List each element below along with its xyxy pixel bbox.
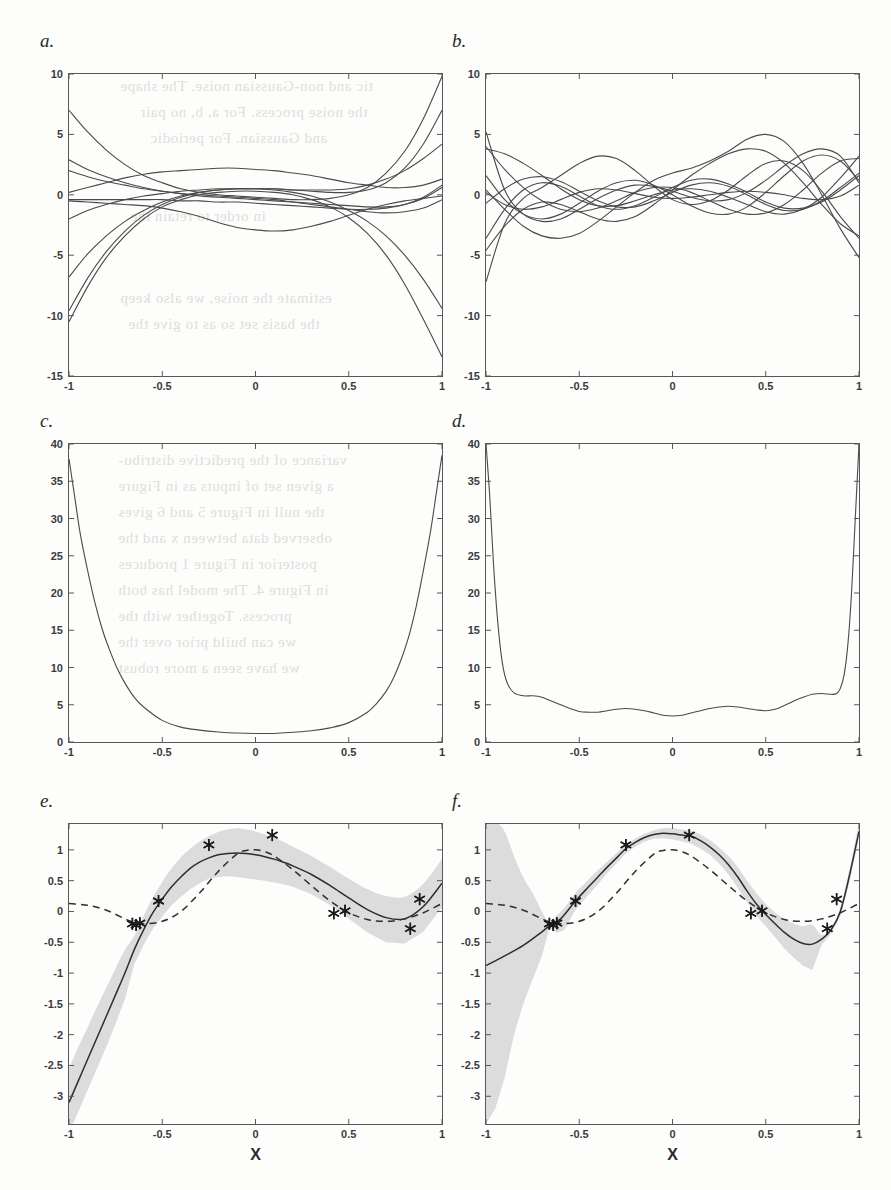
panel-d-ytick-label: 15 — [468, 624, 480, 636]
panel-b-ytick-label: -15 — [464, 370, 480, 382]
panel-d-xtick-label: 0.5 — [758, 746, 773, 758]
panel-d-ytick-label: 40 — [468, 438, 480, 450]
panel-c-ytick-label: 35 — [51, 475, 63, 487]
panel-c: c. 4035302520151050-1-0.500.51 — [40, 410, 445, 770]
panel-c-label: c. — [40, 410, 53, 432]
panel-a-axes: 1050-5-10-15-1-0.500.51 — [68, 73, 443, 377]
panel-f-xtick-label: -1 — [481, 1128, 491, 1140]
panel-d-xtick-label: 1 — [856, 746, 862, 758]
sample-curve-7 — [486, 134, 859, 257]
panel-c-ytick-label: 30 — [51, 513, 63, 525]
panel-d-ytick-label: 0 — [474, 736, 480, 748]
panel-c-xtick-label: 0 — [252, 746, 258, 758]
panel-e-xtick-label: 1 — [439, 1128, 445, 1140]
variance-curve — [69, 455, 442, 733]
panel-d-ytick-label: 35 — [468, 475, 480, 487]
panel-b-ytick-label: 0 — [474, 189, 480, 201]
sample-curve-9 — [69, 196, 442, 231]
sample-curve-6 — [486, 173, 859, 211]
panel-e-xtick-label: -0.5 — [153, 1128, 172, 1140]
panel-a-xtick-label: 1 — [439, 380, 445, 392]
panel-b-ytick-label: 10 — [468, 68, 480, 80]
panel-f-ytick-label: 0.5 — [465, 875, 480, 887]
panel-b-ytick-label: -5 — [470, 249, 480, 261]
panel-d-xtick-label: -0.5 — [570, 746, 589, 758]
panel-b: b. 1050-5-10-15-1-0.500.51 — [452, 30, 872, 390]
panel-e-xtick-label: -1 — [64, 1128, 74, 1140]
panel-e-ytick-label: -2.5 — [44, 1059, 63, 1071]
panel-a-ytick-label: 0 — [57, 189, 63, 201]
panel-c-ytick-label: 40 — [51, 438, 63, 450]
panel-c-ytick-label: 15 — [51, 624, 63, 636]
panel-b-axes: 1050-5-10-15-1-0.500.51 — [485, 73, 860, 377]
panel-a-xtick-label: 0 — [252, 380, 258, 392]
sample-curve-9 — [486, 149, 859, 214]
panel-d-xtick-label: -1 — [481, 746, 491, 758]
panel-f-axes: X 10.50-0.5-1-1.5-2-2.5-3-1-0.500.51 — [485, 823, 860, 1125]
panel-e-xtick-label: 0.5 — [341, 1128, 356, 1140]
sample-curve-3 — [69, 110, 442, 311]
panel-e-ytick-label: -1 — [53, 967, 63, 979]
panel-f-ytick-label: -2 — [470, 1029, 480, 1041]
panel-e-ytick-label: -1.5 — [44, 998, 63, 1010]
panel-c-ytick-label: 0 — [57, 736, 63, 748]
sample-curve-3 — [486, 146, 859, 214]
panel-f-ytick-label: -2.5 — [461, 1059, 480, 1071]
panel-d-ytick-label: 10 — [468, 662, 480, 674]
panel-d-plot — [486, 444, 859, 742]
panel-c-xtick-label: -1 — [64, 746, 74, 758]
sample-curve-1 — [69, 76, 442, 199]
panel-e-ytick-label: 1 — [57, 844, 63, 856]
panel-c-axes: 4035302520151050-1-0.500.51 — [68, 443, 443, 743]
sample-curve-10 — [486, 185, 859, 209]
panel-e: e. X 10.50-0.5-1-1.5-2-2.5-3-1-0.500.51 — [40, 790, 445, 1190]
panel-e-xlabel: X — [250, 1146, 261, 1164]
panel-e-ytick-label: -2 — [53, 1029, 63, 1041]
panel-b-ytick-label: -10 — [464, 310, 480, 322]
panel-a-ytick-label: 5 — [57, 128, 63, 140]
panel-c-ytick-label: 5 — [57, 699, 63, 711]
panel-a-plot — [69, 74, 442, 376]
panel-f-xtick-label: 0 — [669, 1128, 675, 1140]
panel-c-ytick-label: 20 — [51, 587, 63, 599]
panel-c-xtick-label: 0.5 — [341, 746, 356, 758]
panel-f-xlabel: X — [667, 1146, 678, 1164]
panel-a-ytick-label: -15 — [47, 370, 63, 382]
panel-a-ytick-label: -5 — [53, 249, 63, 261]
panel-a-xtick-label: -0.5 — [153, 380, 172, 392]
panel-a-label: a. — [40, 30, 54, 52]
panel-e-ytick-label: 0 — [57, 905, 63, 917]
panel-e-ytick-label: -0.5 — [44, 936, 63, 948]
uncertainty-band — [486, 821, 859, 1124]
sample-curve-2 — [69, 191, 442, 357]
panel-f-xtick-label: 1 — [856, 1128, 862, 1140]
panel-e-xtick-label: 0 — [252, 1128, 258, 1140]
panel-d-axes: 4035302520151050-1-0.500.51 — [485, 443, 860, 743]
panel-d-ytick-label: 5 — [474, 699, 480, 711]
panel-b-xtick-label: -0.5 — [570, 380, 589, 392]
panel-e-label: e. — [40, 790, 53, 812]
panel-a: a. 1050-5-10-15-1-0.500.51 — [40, 30, 445, 390]
panel-b-xtick-label: 0 — [669, 380, 675, 392]
panel-f: f. X 10.50-0.5-1-1.5-2-2.5-3-1-0.500.51 — [452, 790, 872, 1190]
panel-b-xtick-label: -1 — [481, 380, 491, 392]
panel-d-xtick-label: 0 — [669, 746, 675, 758]
panel-c-xtick-label: -0.5 — [153, 746, 172, 758]
panel-f-ytick-label: 0 — [474, 905, 480, 917]
panel-e-plot — [69, 824, 442, 1124]
panel-b-xtick-label: 1 — [856, 380, 862, 392]
panel-a-xtick-label: 0.5 — [341, 380, 356, 392]
figure-six-panel: a. 1050-5-10-15-1-0.500.51 b. 1050-5-10-… — [0, 0, 891, 1190]
panel-f-ytick-label: -1 — [470, 967, 480, 979]
panel-b-plot — [486, 74, 859, 376]
panel-f-ytick-label: -3 — [470, 1090, 480, 1102]
panel-e-ytick-label: -3 — [53, 1090, 63, 1102]
panel-f-xtick-label: -0.5 — [570, 1128, 589, 1140]
panel-a-xtick-label: -1 — [64, 380, 74, 392]
panel-d-ytick-label: 30 — [468, 513, 480, 525]
panel-b-label: b. — [452, 30, 466, 52]
panel-b-xtick-label: 0.5 — [758, 380, 773, 392]
panel-c-plot — [69, 444, 442, 742]
panel-d: d. 4035302520151050-1-0.500.51 — [452, 410, 872, 770]
data-point-asterisk — [831, 893, 841, 905]
